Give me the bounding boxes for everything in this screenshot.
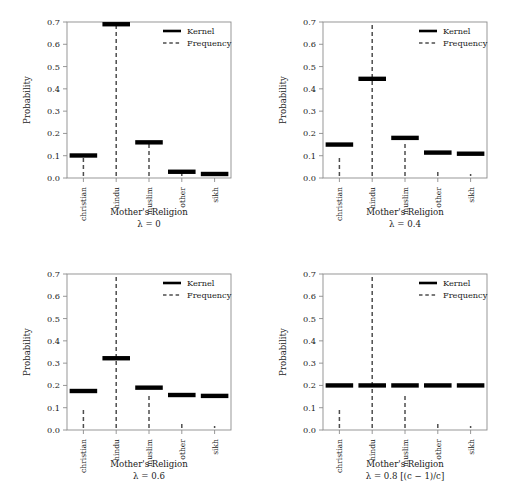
legend-label-frequency: Frequency	[187, 290, 232, 300]
y-tick-label: 0.0	[303, 425, 316, 435]
x-axis-title: Mother's Religion	[110, 207, 188, 217]
y-tick-label: 0.5	[47, 62, 60, 72]
x-category-label: sikh	[211, 187, 220, 203]
y-tick-label: 0.7	[303, 17, 316, 27]
y-tick-label: 0.0	[47, 173, 60, 183]
y-tick-label: 0.1	[303, 151, 316, 161]
y-axis-title: Probability	[278, 328, 288, 376]
x-category-label: christian	[335, 187, 344, 221]
y-tick-label: 0.6	[303, 39, 316, 49]
x-category-label: sikh	[211, 439, 220, 455]
chart-panel: 0.00.10.20.30.40.50.60.7Probabilitychris…	[256, 0, 513, 252]
y-tick-label: 0.0	[47, 425, 60, 435]
y-tick-label: 0.6	[47, 291, 60, 301]
x-category-label: other	[434, 187, 443, 208]
x-category-label: christian	[79, 439, 88, 473]
y-tick-label: 0.1	[47, 151, 60, 161]
x-category-label: sikh	[467, 187, 476, 203]
y-tick-label: 0.3	[303, 358, 316, 368]
y-axis-title: Probability	[278, 76, 288, 124]
y-tick-label: 0.3	[47, 106, 60, 116]
legend-label-kernel: Kernel	[443, 278, 471, 288]
x-category-label: hindu	[368, 439, 377, 461]
y-tick-label: 0.0	[303, 173, 316, 183]
x-category-label: hindu	[368, 187, 377, 209]
legend-label-kernel: Kernel	[443, 26, 471, 36]
x-category-label: sikh	[467, 439, 476, 455]
y-tick-label: 0.7	[47, 17, 60, 27]
chart-panel: 0.00.10.20.30.40.50.60.7Probabilitychris…	[256, 252, 513, 504]
y-axis-title: Probability	[22, 76, 32, 124]
y-tick-label: 0.5	[303, 314, 316, 324]
y-tick-label: 0.1	[303, 403, 316, 413]
y-tick-label: 0.1	[47, 403, 60, 413]
x-category-label: hindu	[112, 187, 121, 209]
panel-subtitle-lambda: λ = 0.8 [(c − 1)/c]	[366, 471, 445, 481]
y-tick-label: 0.2	[303, 380, 316, 390]
chart-panel: 0.00.10.20.30.40.50.60.7Probabilitychris…	[0, 0, 256, 252]
chart-panel: 0.00.10.20.30.40.50.60.7Probabilitychris…	[0, 252, 256, 504]
y-tick-label: 0.2	[47, 380, 60, 390]
x-category-label: other	[178, 187, 187, 208]
y-tick-label: 0.3	[47, 358, 60, 368]
y-tick-label: 0.5	[303, 62, 316, 72]
y-tick-label: 0.3	[303, 106, 316, 116]
y-tick-label: 0.6	[47, 39, 60, 49]
panel-subtitle-lambda: λ = 0	[137, 219, 161, 229]
y-tick-label: 0.4	[303, 336, 316, 346]
x-axis-title: Mother's Religion	[366, 207, 444, 217]
x-category-label: hindu	[112, 439, 121, 461]
legend-label-kernel: Kernel	[187, 278, 215, 288]
x-axis-title: Mother's Religion	[366, 459, 444, 469]
y-tick-label: 0.5	[47, 314, 60, 324]
legend: KernelFrequency	[163, 278, 232, 300]
figure-grid: 0.00.10.20.30.40.50.60.7Probabilitychris…	[0, 0, 513, 504]
panel-subtitle-lambda: λ = 0.6	[133, 471, 165, 481]
x-category-label: christian	[79, 187, 88, 221]
x-category-label: other	[178, 439, 187, 460]
y-tick-label: 0.6	[303, 291, 316, 301]
legend: KernelFrequency	[163, 26, 232, 48]
legend-label-frequency: Frequency	[187, 38, 232, 48]
y-tick-label: 0.4	[47, 84, 60, 94]
x-category-label: christian	[335, 439, 344, 473]
legend-label-frequency: Frequency	[443, 38, 488, 48]
legend-label-frequency: Frequency	[443, 290, 488, 300]
y-tick-label: 0.7	[303, 269, 316, 279]
y-axis-title: Probability	[22, 328, 32, 376]
y-tick-label: 0.2	[303, 128, 316, 138]
legend: KernelFrequency	[419, 26, 488, 48]
x-axis-title: Mother's Religion	[110, 459, 188, 469]
panel-subtitle-lambda: λ = 0.4	[389, 219, 421, 229]
legend-label-kernel: Kernel	[187, 26, 215, 36]
y-tick-label: 0.2	[47, 128, 60, 138]
y-tick-label: 0.4	[47, 336, 60, 346]
x-category-label: other	[434, 439, 443, 460]
y-tick-label: 0.7	[47, 269, 60, 279]
legend: KernelFrequency	[419, 278, 488, 300]
y-tick-label: 0.4	[303, 84, 316, 94]
